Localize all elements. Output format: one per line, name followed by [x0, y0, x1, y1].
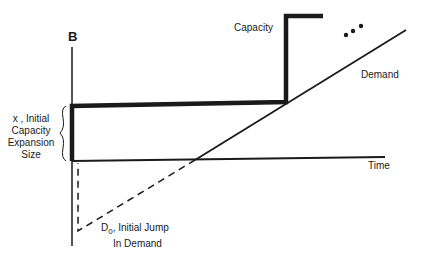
axis-label-b: B	[68, 31, 77, 43]
time-axis-label: Time	[368, 160, 390, 172]
capacity-line	[72, 16, 323, 161]
initial-capacity-label: x , Initial Capacity Expansion Size	[2, 113, 60, 161]
continuation-dot	[351, 29, 355, 33]
initial-label-line: Capacity	[2, 125, 60, 137]
continuation-dot	[359, 24, 363, 28]
demand-line	[195, 30, 406, 160]
capacity-label: Capacity	[234, 22, 273, 34]
d0-rest: , Initial Jump	[113, 222, 169, 233]
d0-label: D0, Initial Jump	[101, 222, 169, 238]
capacity-expansion-diagram	[0, 0, 421, 262]
continuation-dot	[344, 33, 348, 37]
brace-icon	[60, 106, 66, 161]
demand-label: Demand	[361, 69, 399, 81]
d0-label-line2: In Demand	[113, 238, 162, 250]
initial-label-line: x , Initial	[2, 113, 60, 125]
initial-label-line: Expansion	[2, 137, 60, 149]
time-axis	[72, 157, 385, 161]
demand-dashed-extension	[78, 160, 195, 231]
initial-label-line: Size	[2, 149, 60, 161]
